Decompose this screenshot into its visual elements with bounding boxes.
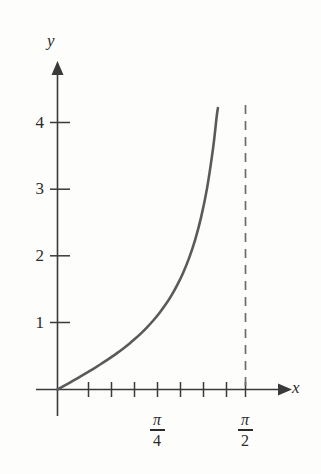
fraction-pi-over-4: π 4 (150, 411, 165, 449)
tangent-function-plot: y x 1 2 3 4 π 4 π 2 (0, 0, 321, 474)
fraction-numerator: π (238, 411, 253, 429)
y-tick-label-4: 4 (22, 114, 44, 131)
fraction-pi-over-2: π 2 (238, 411, 253, 449)
x-axis-label: x (292, 379, 300, 396)
fraction-numerator: π (150, 411, 165, 429)
y-tick-label-1: 1 (22, 314, 44, 331)
y-axis (52, 61, 64, 416)
y-axis-ticks (50, 123, 70, 323)
y-axis-label: y (47, 32, 55, 49)
tangent-curve (58, 108, 218, 389)
plot-canvas (0, 0, 321, 474)
x-axis (36, 384, 292, 396)
y-tick-label-3: 3 (22, 180, 44, 197)
y-axis-arrowhead (52, 61, 64, 75)
x-tick-label-pi-over-4: π 4 (135, 411, 179, 449)
fraction-denominator: 2 (238, 431, 253, 449)
fraction-denominator: 4 (150, 431, 165, 449)
x-axis-arrowhead (278, 384, 292, 396)
x-tick-label-pi-over-2: π 2 (223, 411, 267, 449)
y-tick-label-2: 2 (22, 247, 44, 264)
